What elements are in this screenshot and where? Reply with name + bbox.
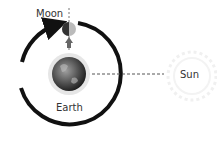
moon-label: Moon [36,9,63,19]
earth-icon [48,53,90,95]
moon-icon [62,22,76,36]
earth-label: Earth [56,103,83,113]
arrow-up-icon [65,37,73,48]
sun-label: Sun [180,70,199,80]
